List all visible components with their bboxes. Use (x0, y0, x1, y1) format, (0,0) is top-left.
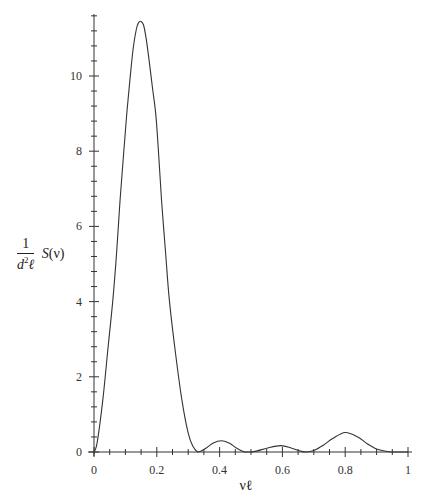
y-tick-label: 10 (70, 69, 82, 83)
y-axis-label-denominator: d2ℓ (17, 254, 34, 272)
data-series-line (94, 21, 408, 452)
y-axis-label-numerator: 1 (17, 237, 34, 254)
x-tick-label: 0 (91, 463, 97, 477)
y-tick-label: 8 (76, 144, 82, 158)
y-axis-label-function: S(ν) (42, 247, 65, 261)
x-axis-label: νℓ (239, 478, 252, 493)
x-tick-label: 1 (405, 463, 411, 477)
x-tick-label: 0.8 (338, 463, 353, 477)
y-axis-label: 1 d2ℓ S(ν) (17, 237, 65, 272)
x-tick-label: 0.6 (275, 463, 290, 477)
y-tick-label: 2 (76, 370, 82, 384)
tick-labels: 00.20.40.60.810246810 (70, 69, 411, 477)
ticks (89, 16, 408, 457)
x-tick-label: 0.2 (149, 463, 164, 477)
y-axis-label-fraction: 1 d2ℓ (17, 237, 34, 272)
x-tick-label: 0.4 (212, 463, 227, 477)
y-tick-label: 0 (76, 445, 82, 459)
y-tick-label: 6 (76, 219, 82, 233)
y-tick-label: 4 (76, 295, 82, 309)
axes (88, 14, 412, 456)
